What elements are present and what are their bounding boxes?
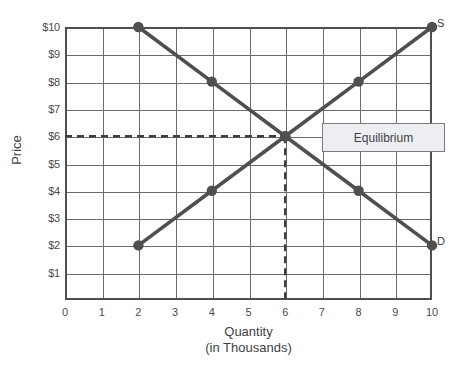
demand-data-point xyxy=(133,22,143,32)
supply-data-point xyxy=(427,22,437,32)
supply-data-point xyxy=(353,76,363,86)
supply-demand-chart: $1$2$3$4$5$6$7$8$9$10 012345678910 Price… xyxy=(0,0,470,373)
supply-data-point xyxy=(207,186,217,196)
equilibrium-callout-label: Equilibrium xyxy=(354,131,413,145)
demand-data-point xyxy=(427,240,437,250)
curve-overlay xyxy=(0,0,470,373)
demand-data-point xyxy=(207,76,217,86)
demand-data-point xyxy=(280,131,290,141)
demand-data-point xyxy=(353,186,363,196)
supply-data-point xyxy=(133,240,143,250)
equilibrium-callout: Equilibrium xyxy=(322,123,445,152)
supply-curve-label: S xyxy=(437,18,444,29)
demand-curve-label: D xyxy=(437,236,445,247)
